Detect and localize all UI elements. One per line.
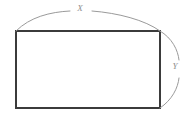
width-dimension-label: X: [73, 4, 87, 13]
geometry-figure: X Y: [0, 0, 190, 116]
height-brace-lower-arc: [160, 78, 179, 108]
height-brace-upper-arc: [160, 31, 179, 60]
width-brace-right-arc: [92, 11, 160, 31]
height-dimension-label: Y: [169, 62, 181, 71]
rectangle-shape: [16, 31, 160, 108]
rectangle-diagram-svg: [0, 0, 190, 116]
width-brace-left-arc: [16, 11, 70, 31]
